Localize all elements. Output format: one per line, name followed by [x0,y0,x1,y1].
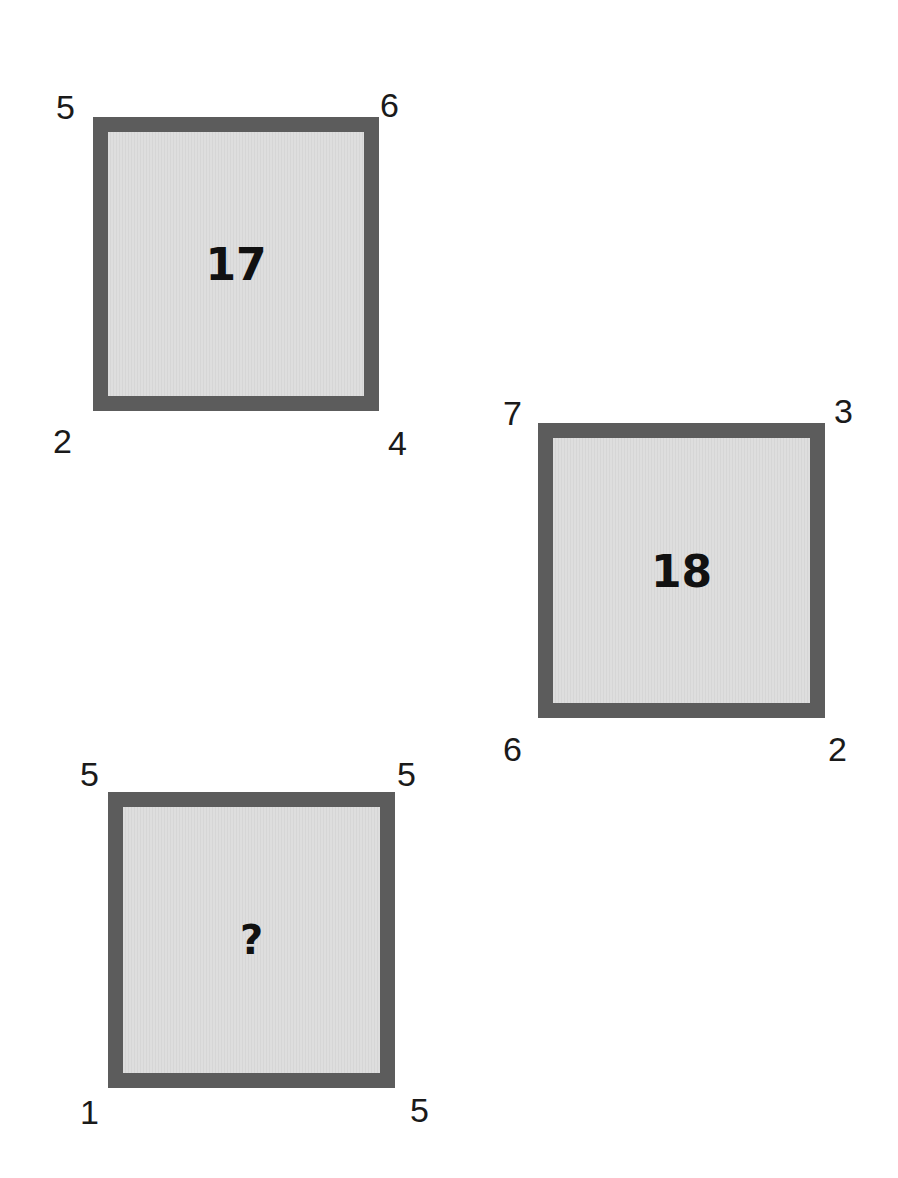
corner-number-bottom-left: 2 [53,424,72,458]
center-number: 18 [553,545,810,596]
corner-number-bottom-right: 2 [828,732,847,766]
center-number: 17 [108,239,364,290]
puzzle-square-3: ? [108,792,395,1088]
corner-number-bottom-right: 5 [410,1093,429,1127]
puzzle-square-1: 17 [93,117,379,411]
corner-number-top-left: 5 [56,90,75,124]
corner-number-top-left: 5 [80,757,99,791]
corner-number-top-left: 7 [503,396,522,430]
corner-number-top-right: 5 [397,757,416,791]
corner-number-top-right: 6 [380,88,399,122]
corner-number-bottom-left: 1 [80,1095,99,1129]
corner-number-top-right: 3 [834,394,853,428]
puzzle-square-2: 18 [538,423,825,718]
corner-number-bottom-left: 6 [503,732,522,766]
corner-number-bottom-right: 4 [388,426,407,460]
unknown-center: ? [123,917,380,963]
